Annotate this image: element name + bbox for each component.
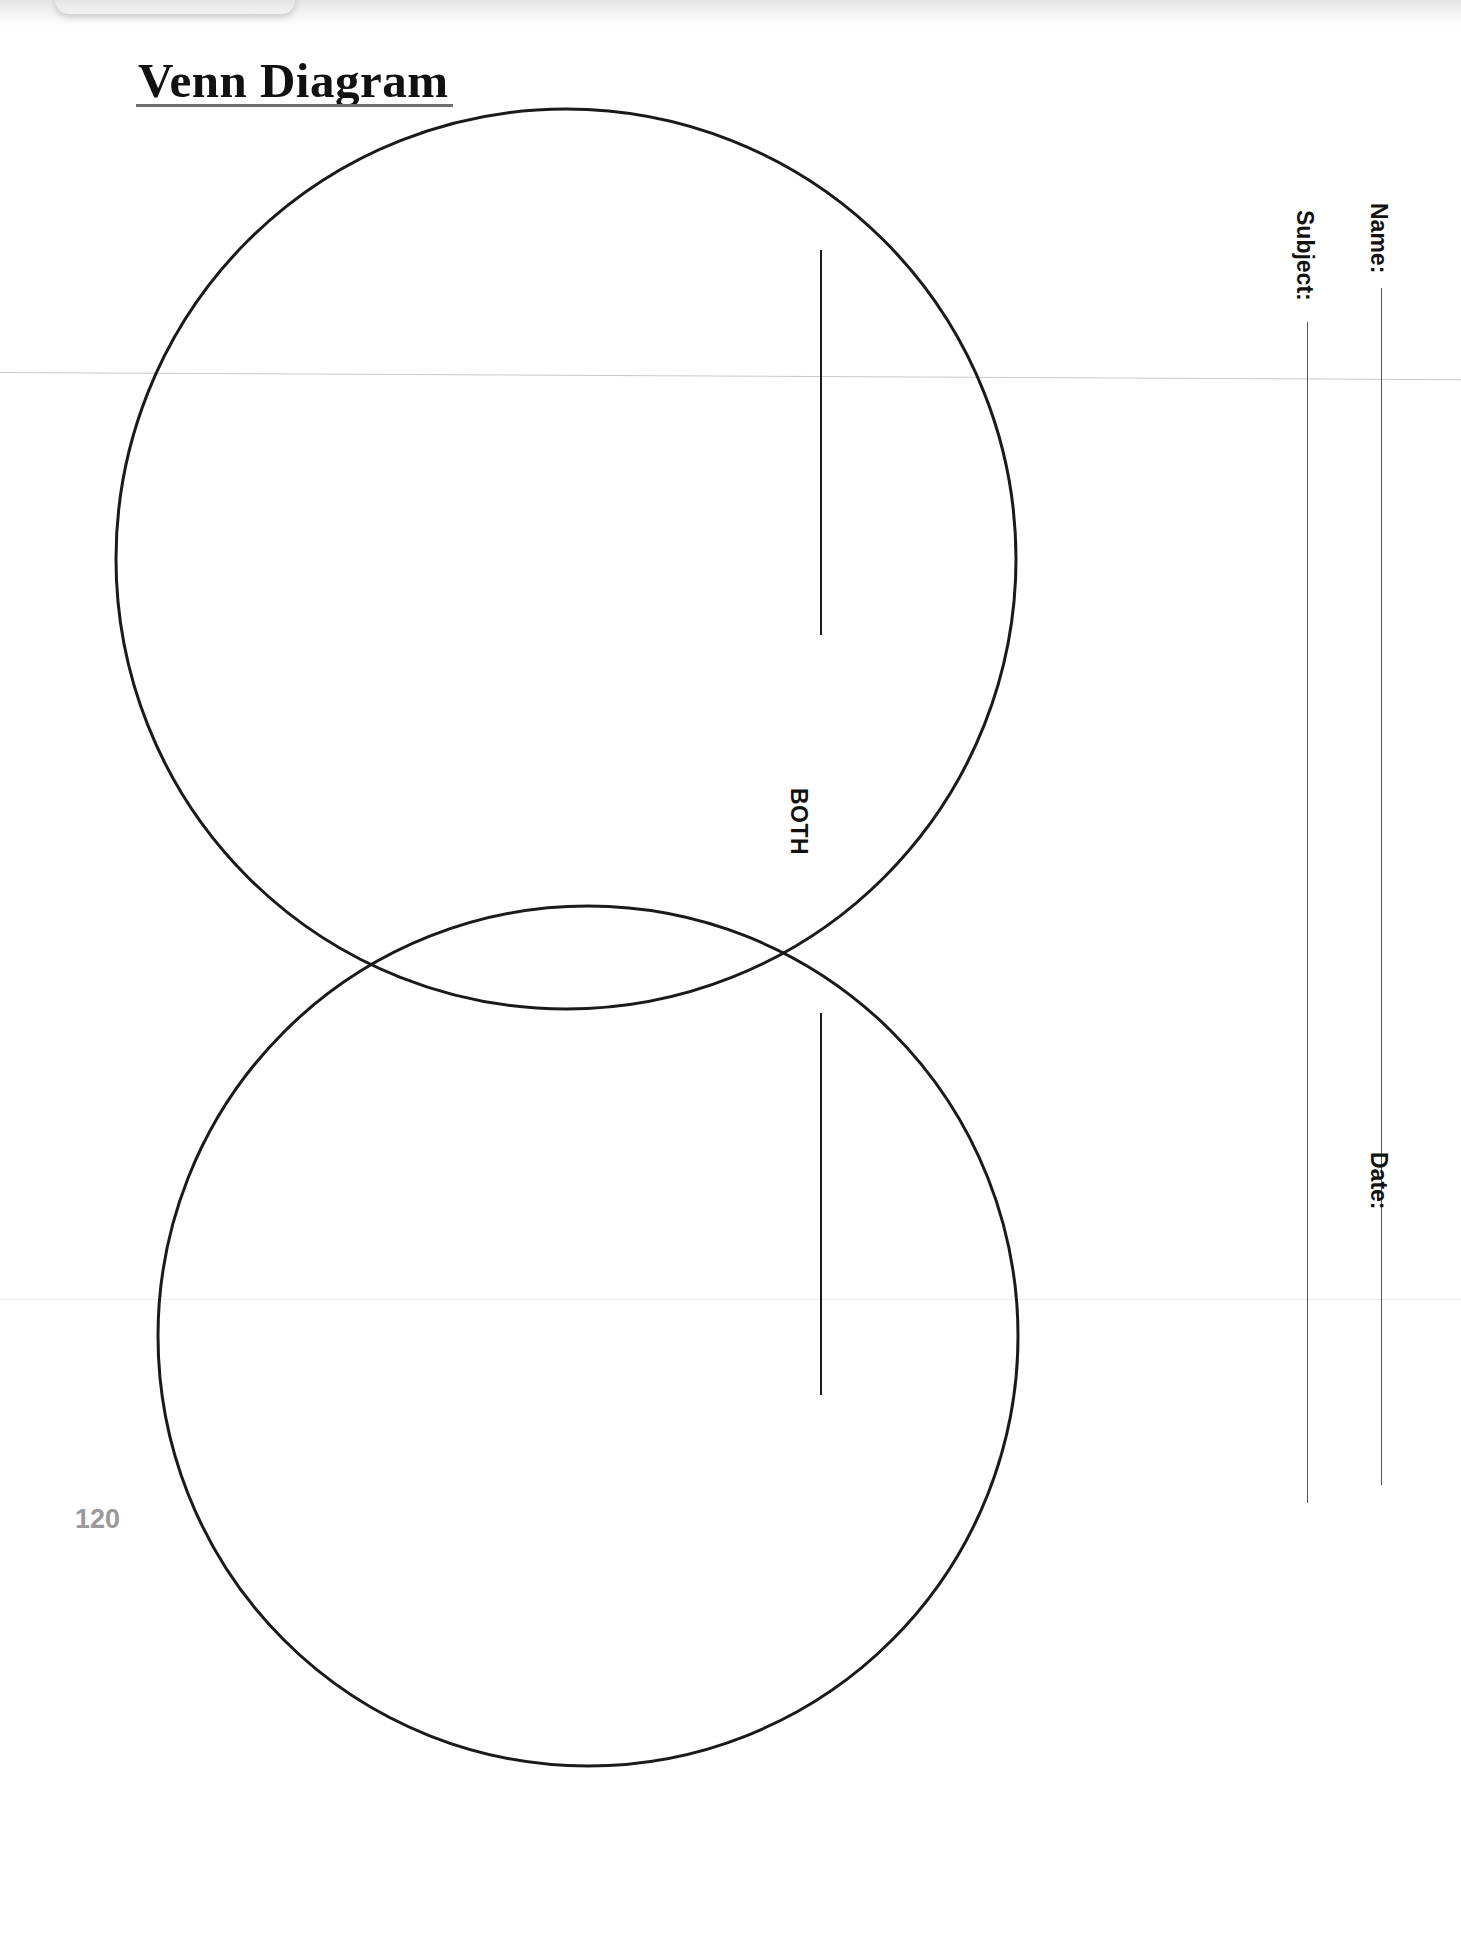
venn-diagram-graphic	[0, 0, 1461, 1944]
scanned-worksheet-page: p g Venn Diagram BOTH Name: Subject: Dat…	[0, 0, 1461, 1944]
date-field-label: Date:	[1365, 1152, 1392, 1210]
scan-fold-line-lower	[0, 1299, 1461, 1300]
page-number: 120	[75, 1504, 120, 1535]
venn-circle-bottom	[158, 906, 1018, 1766]
cropped-overlay-chip[interactable]: p g	[55, 0, 295, 14]
subject-field-rule[interactable]	[1307, 322, 1308, 1503]
scan-fold-line-upper	[0, 372, 1461, 380]
bottom-circle-write-rule[interactable]	[820, 1013, 822, 1395]
subject-field-label: Subject:	[1291, 210, 1318, 301]
name-field-rule[interactable]	[1381, 288, 1382, 1485]
page-title: Venn Diagram	[138, 52, 448, 109]
top-circle-write-rule[interactable]	[820, 250, 822, 635]
name-field-label: Name:	[1365, 203, 1392, 273]
venn-intersection-label: BOTH	[785, 788, 812, 855]
venn-circle-top	[116, 109, 1016, 1009]
page-title-underline	[136, 104, 453, 107]
